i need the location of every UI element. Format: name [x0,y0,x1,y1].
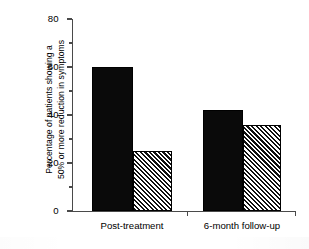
x-tick-label-post-treatment: Post-treatment [101,220,164,231]
x-tick-axis-end [295,211,296,216]
y-axis-line [72,19,73,211]
y-tick-major-60: 60 [67,66,73,67]
y-tick-major-40: 40 [67,114,73,115]
y-tick-minor-10 [69,186,72,187]
y-tick-major-20: 20 [67,162,73,163]
bar-solid-post-treatment [92,67,133,211]
x-tick-group-separator [187,211,188,216]
y-tick-label-40: 40 [48,109,59,120]
bar-hatched-6-month-follow-up [243,125,281,211]
x-tick-label-6-month-follow-up: 6-month follow-up [204,220,280,231]
y-tick-label-0: 0 [53,205,58,216]
y-tick-label-60: 60 [48,61,59,72]
plot-area: 80 60 40 20 0 Post-treatment 6-month fol… [72,19,296,211]
bar-hatched-post-treatment [133,151,172,211]
y-tick-major-0: 0 [67,210,73,211]
x-axis-line [72,211,296,212]
bar-solid-6-month-follow-up [203,110,243,211]
y-axis-title: Percentage of patients showing a 50% or … [14,0,48,215]
scan-artifact [0,237,309,249]
y-tick-minor-50 [69,90,72,91]
y-tick-label-20: 20 [48,157,59,168]
bar-chart-figure: Percentage of patients showing a 50% or … [0,0,309,249]
y-tick-major-80: 80 [67,18,73,19]
y-tick-minor-30 [69,138,72,139]
y-tick-minor-70 [69,42,72,43]
y-tick-label-80: 80 [48,13,59,24]
